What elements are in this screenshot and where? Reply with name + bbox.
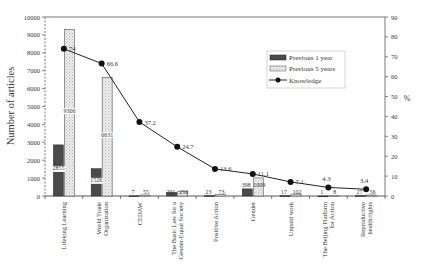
x-axis-label: The Beijing Platformfor Action (321, 201, 335, 257)
x-axis-label-line: World Trade (95, 202, 102, 235)
knowledge-point (174, 144, 180, 150)
y2-axis-title: % (404, 94, 411, 103)
bar-value-label-5yr: 55 (143, 189, 149, 195)
legend-swatch-5yr (270, 66, 286, 71)
bar-value-label-5yr: 56 (370, 189, 376, 195)
bar-previous-1-year (356, 196, 366, 197)
legend: Previous 1 yearPrevious 5 yearsKnowledge (267, 51, 345, 88)
x-axis-label-line: Lifelong Learning (60, 201, 67, 249)
x-axis-label: Lifelong Learning (60, 201, 67, 249)
right-tick-label: 70 (391, 53, 398, 60)
x-axis-label-line: Unpaid work (287, 201, 294, 236)
knowledge-value-label: 74 (69, 45, 76, 52)
bar-value-label-5yr: 250 (179, 189, 188, 195)
x-axis-label: World TradeOrganization (95, 201, 109, 236)
x-axis-label-line: Gender (249, 201, 256, 221)
x-axis-label-line: Reproductive (359, 202, 366, 237)
x-axis-labels: Lifelong LearningWorld TradeOrganization… (60, 201, 373, 259)
bar-value-label-1yr: 7 (131, 189, 134, 195)
bar-value-label-5yr: 1009 (253, 182, 265, 188)
bar-value-label-5yr: 102 (293, 189, 302, 195)
knowledge-value-label: 11.1 (258, 170, 269, 177)
knowledge-point (250, 171, 256, 177)
left-tick-label: 1000 (27, 175, 40, 182)
knowledge-value-label: 37.2 (144, 119, 155, 126)
bar-value-label-1yr: 398 (242, 182, 251, 188)
right-tick-label: 20 (391, 153, 398, 160)
bar-value-label-5yr: 9306 (63, 108, 75, 114)
bar-previous-5-years (329, 196, 339, 197)
x-axis-label-line: CEDAW (136, 201, 143, 225)
x-axis-label: The Basic Law for aGender-Equal Society (170, 201, 184, 259)
legend-swatch-1yr (270, 55, 286, 60)
chart: 0100020003000400050006000700080009000100… (0, 0, 421, 269)
bar-previous-5-years (140, 195, 150, 196)
knowledge-point (325, 184, 331, 190)
right-tick-label: 50 (391, 93, 398, 100)
x-axis-label: CEDAW (136, 201, 143, 225)
bar-value-label-1yr: 201 (166, 189, 175, 195)
x-axis-label-line: for Action (328, 201, 335, 228)
right-tick-label: 30 (391, 133, 398, 140)
right-tick-label: 80 (391, 33, 398, 40)
knowledge-value-label: 24.7 (182, 143, 194, 150)
y-axis-title: Number of articles (5, 67, 16, 146)
right-tick-label: 0 (391, 193, 394, 200)
right-tick-label: 60 (391, 73, 398, 80)
x-axis-label-line: Positive Action (212, 201, 219, 242)
left-tick-label: 10000 (24, 14, 40, 21)
bar-previous-1-year (242, 189, 252, 196)
left-tick-label: 2000 (27, 157, 40, 164)
x-axis-label: Reproductivehealth/rights (359, 202, 373, 237)
bar-previous-1-year (129, 196, 139, 197)
left-y-axis: 0100020003000400050006000700080009000100… (24, 14, 45, 200)
knowledge-value-label: 66.6 (107, 60, 119, 67)
bar-value-label-1yr: 1526 (90, 177, 102, 183)
bar-value-label-5yr: 73 (219, 189, 225, 195)
knowledge-point (99, 61, 105, 67)
bar-value-label-1yr: 17 (281, 189, 287, 195)
bar-value-label-1yr: 1 (320, 189, 323, 195)
left-tick-label: 5000 (27, 103, 40, 110)
x-axis-label-line: The Beijing Platform (321, 202, 328, 257)
bar-value-label-5yr: 8 (333, 189, 336, 195)
bar-previous-1-year (205, 196, 215, 197)
knowledge-point (61, 46, 67, 52)
knowledge-point (288, 179, 294, 185)
knowledge-value-label: 4.3 (322, 175, 330, 182)
x-axis-label-line: health/rights (366, 202, 373, 235)
legend-label-knowledge: Knowledge (289, 77, 321, 85)
right-tick-label: 40 (391, 113, 398, 120)
bar-previous-1-year (318, 196, 328, 197)
bar-previous-5-years (216, 195, 226, 196)
knowledge-point (363, 186, 369, 192)
left-tick-label: 4000 (27, 121, 40, 128)
knowledge-value-label: 7.1 (296, 178, 304, 185)
x-axis-label: Positive Action (212, 201, 219, 242)
right-y-axis: 0102030405060708090 (385, 14, 398, 200)
left-tick-label: 0 (37, 193, 40, 200)
bar-value-label-5yr: 6631 (101, 132, 113, 138)
bar-previous-5-years (367, 195, 377, 196)
right-tick-label: 10 (391, 173, 398, 180)
knowledge-point (212, 166, 218, 172)
left-tick-label: 9000 (27, 31, 40, 38)
knowledge-point (136, 119, 142, 125)
legend-marker-knowledge (276, 78, 281, 83)
bar-value-label-1yr: 2855 (52, 165, 64, 171)
x-axis-label-line: The Basic Law for a (170, 202, 177, 255)
bar-value-label-1yr: 23 (206, 189, 212, 195)
x-axis-label: Unpaid work (287, 201, 294, 236)
left-tick-label: 7000 (27, 67, 40, 74)
legend-label-1yr: Previous 1 year (289, 54, 333, 62)
bar-previous-1-year (280, 196, 290, 197)
knowledge-value-label: 13.6 (220, 165, 232, 172)
left-tick-label: 6000 (27, 85, 40, 92)
left-tick-label: 8000 (27, 49, 40, 56)
right-tick-label: 90 (391, 14, 398, 21)
knowledge-value-label: 3.4 (360, 177, 369, 184)
x-axis-label-line: Gender-Equal Society (177, 201, 184, 259)
x-axis-label: Gender (249, 201, 256, 221)
left-tick-label: 3000 (27, 139, 40, 146)
x-axis-label-line: Organization (102, 201, 109, 236)
